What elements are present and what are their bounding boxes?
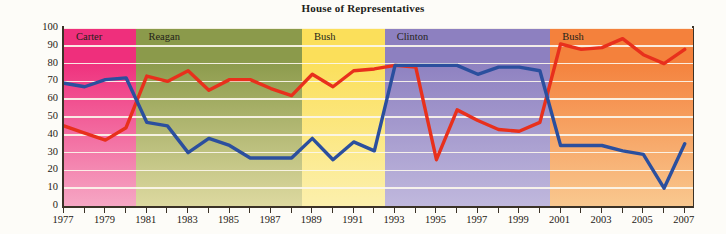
y-tick-label-50: 50 bbox=[2, 110, 58, 121]
x-tick-label-2001: 2001 bbox=[543, 214, 577, 225]
y-tick-label-100: 100 bbox=[2, 21, 58, 32]
x-tick-1991 bbox=[353, 207, 354, 213]
x-tick-2005 bbox=[642, 207, 643, 213]
x-tick-label-1993: 1993 bbox=[377, 214, 411, 225]
y-tick-label-10: 10 bbox=[2, 181, 58, 192]
x-tick-1979 bbox=[104, 207, 105, 213]
x-tick-2001 bbox=[560, 207, 561, 213]
y-axis-ticks: 0102030405060708090100 bbox=[0, 0, 58, 234]
x-tick-1989 bbox=[311, 207, 312, 213]
series-line-blue bbox=[64, 65, 685, 188]
x-tick-label-1997: 1997 bbox=[460, 214, 494, 225]
x-tick-1993 bbox=[394, 207, 395, 213]
x-tick-2007 bbox=[684, 207, 685, 213]
x-tick-1981 bbox=[146, 207, 147, 213]
x-tick-1988 bbox=[291, 207, 292, 213]
x-tick-1995 bbox=[435, 207, 436, 213]
x-tick-1999 bbox=[518, 207, 519, 213]
x-tick-2003 bbox=[601, 207, 602, 213]
x-tick-1990 bbox=[332, 207, 333, 213]
y-tick-label-90: 90 bbox=[2, 39, 58, 50]
x-tick-label-1983: 1983 bbox=[170, 214, 204, 225]
x-tick-1998 bbox=[498, 207, 499, 213]
x-tick-1996 bbox=[456, 207, 457, 213]
x-tick-label-1987: 1987 bbox=[253, 214, 287, 225]
x-tick-1985 bbox=[229, 207, 230, 213]
x-tick-label-1999: 1999 bbox=[501, 214, 535, 225]
x-tick-label-1985: 1985 bbox=[212, 214, 246, 225]
x-tick-1982 bbox=[166, 207, 167, 213]
y-tick-label-70: 70 bbox=[2, 74, 58, 85]
series-line-red bbox=[64, 39, 685, 160]
chart-title: House of Representatives bbox=[0, 2, 726, 14]
x-tick-label-1989: 1989 bbox=[294, 214, 328, 225]
x-tick-1980 bbox=[125, 207, 126, 213]
x-tick-1992 bbox=[373, 207, 374, 213]
x-tick-1983 bbox=[187, 207, 188, 213]
x-tick-1984 bbox=[208, 207, 209, 213]
x-tick-2000 bbox=[539, 207, 540, 213]
data-lines bbox=[64, 28, 693, 206]
x-tick-2002 bbox=[580, 207, 581, 213]
x-tick-1978 bbox=[84, 207, 85, 213]
x-tick-label-2007: 2007 bbox=[667, 214, 701, 225]
x-tick-label-2003: 2003 bbox=[584, 214, 618, 225]
x-tick-label-1995: 1995 bbox=[418, 214, 452, 225]
y-tick-label-40: 40 bbox=[2, 128, 58, 139]
plot-area: CarterReaganBushClintonBush bbox=[63, 28, 693, 206]
y-tick-label-20: 20 bbox=[2, 163, 58, 174]
y-tick-label-80: 80 bbox=[2, 57, 58, 68]
x-tick-label-1979: 1979 bbox=[87, 214, 121, 225]
x-tick-label-1991: 1991 bbox=[336, 214, 370, 225]
chart-root: House of Representatives f President's P… bbox=[0, 0, 726, 234]
x-tick-2004 bbox=[622, 207, 623, 213]
x-tick-1994 bbox=[415, 207, 416, 213]
x-tick-1986 bbox=[249, 207, 250, 213]
x-tick-2006 bbox=[663, 207, 664, 213]
x-tick-1997 bbox=[477, 207, 478, 213]
x-tick-label-2005: 2005 bbox=[625, 214, 659, 225]
x-axis-line bbox=[62, 206, 694, 208]
x-tick-label-1977: 1977 bbox=[46, 214, 80, 225]
y-tick-label-30: 30 bbox=[2, 146, 58, 157]
x-tick-label-1981: 1981 bbox=[129, 214, 163, 225]
x-tick-1987 bbox=[270, 207, 271, 213]
y-tick-label-0: 0 bbox=[2, 199, 58, 210]
x-tick-1977 bbox=[63, 207, 64, 213]
y-tick-label-60: 60 bbox=[2, 92, 58, 103]
